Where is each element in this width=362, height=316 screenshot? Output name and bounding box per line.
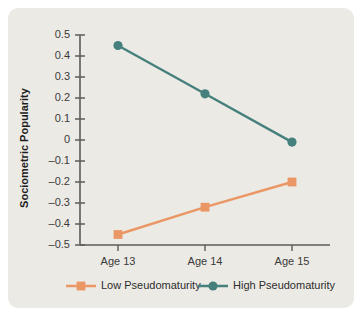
legend-label: High Pseudomaturity: [233, 279, 336, 291]
y-axis: [75, 35, 85, 245]
y-tick-label: –0.3: [49, 196, 70, 208]
legend-marker-circle-icon: [208, 281, 217, 290]
legend-item-high-pseudomaturity[interactable]: High Pseudomaturity: [198, 279, 336, 291]
legend-item-low-pseudomaturity[interactable]: Low Pseudomaturity: [66, 279, 201, 291]
y-axis-title: Sociometric Popularity: [18, 87, 30, 208]
data-point: [114, 230, 123, 239]
x-axis: [80, 245, 330, 251]
data-point: [200, 89, 209, 98]
y-tick-label: –0.1: [49, 154, 70, 166]
x-tick-label: Age 14: [188, 255, 223, 267]
y-axis-tick-labels: 0.5 0.4 0.3 0.2 0.1 0 –0.1 –0.2 –0.3 –0.…: [49, 28, 70, 250]
y-tick-label: 0.1: [55, 112, 70, 124]
data-point: [113, 41, 122, 50]
y-tick-label: 0.4: [55, 49, 70, 61]
data-point: [288, 178, 297, 187]
series-low-pseudomaturity: [114, 178, 297, 239]
series-high-pseudomaturity: [113, 41, 296, 147]
line-chart: Sociometric Popularity 0.5 0.4 0.3 0.2 0…: [8, 8, 354, 308]
chart-legend: Low Pseudomaturity High Pseudomaturity: [66, 279, 336, 291]
y-tick-label: –0.4: [49, 217, 70, 229]
y-tick-label: 0: [64, 133, 70, 145]
y-tick-label: 0.2: [55, 91, 70, 103]
x-tick-label: Age 15: [275, 255, 310, 267]
legend-marker-square-icon: [77, 282, 86, 291]
chart-card: Sociometric Popularity 0.5 0.4 0.3 0.2 0…: [8, 8, 354, 308]
y-tick-label: –0.5: [49, 238, 70, 250]
data-point: [201, 203, 210, 212]
y-tick-label: –0.2: [49, 175, 70, 187]
legend-label: Low Pseudomaturity: [101, 279, 201, 291]
data-point: [287, 138, 296, 147]
y-tick-label: 0.3: [55, 70, 70, 82]
y-tick-label: 0.5: [55, 28, 70, 40]
x-tick-label: Age 13: [101, 255, 136, 267]
x-axis-tick-labels: Age 13 Age 14 Age 15: [101, 255, 310, 267]
